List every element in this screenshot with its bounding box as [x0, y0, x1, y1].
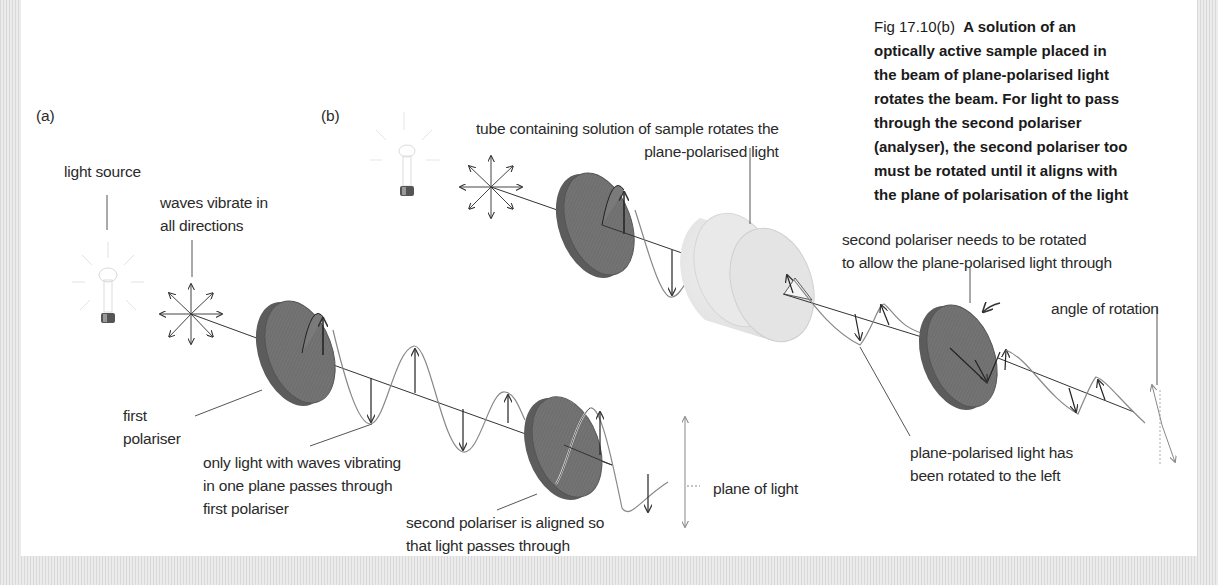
tube-label: tube containing solution of sample rotat…: [476, 117, 779, 163]
only-light-label: only light with waves vibrating in one p…: [203, 451, 401, 520]
light-bulb-icon: [370, 112, 440, 196]
first-polariser-label: first polariser: [123, 404, 181, 450]
second-polariser-aligned-label: second polariser is aligned so that ligh…: [406, 511, 604, 557]
light-source-label: light source: [64, 160, 141, 183]
second-polariser-aligned: [511, 387, 615, 510]
panel-a-label: (a): [36, 104, 54, 127]
figure-caption: Fig 17.10(b) A solution of an optically …: [874, 15, 1194, 207]
light-bulb-icon: [72, 242, 144, 323]
plane-of-light-arrow: [685, 417, 700, 527]
figure-number: Fig 17.10(b): [874, 18, 955, 35]
panel-b-label: (b): [321, 104, 339, 127]
second-polariser-rotated-label: second polariser needs to be rotated to …: [842, 228, 1112, 274]
second-polariser-rotated: [906, 295, 1011, 420]
first-polariser-b: [543, 163, 648, 288]
sample-tube: [680, 202, 828, 352]
angle-of-rotation-label: angle of rotation: [1051, 297, 1159, 320]
rotated-left-label: plane-polarised light has been rotated t…: [910, 441, 1073, 487]
first-polariser: [243, 291, 349, 416]
angle-of-rotation-indicator: [1152, 306, 1175, 465]
plane-of-light-label: plane of light: [713, 477, 798, 500]
waves-vibrate-label: waves vibrate in all directions: [160, 191, 268, 237]
